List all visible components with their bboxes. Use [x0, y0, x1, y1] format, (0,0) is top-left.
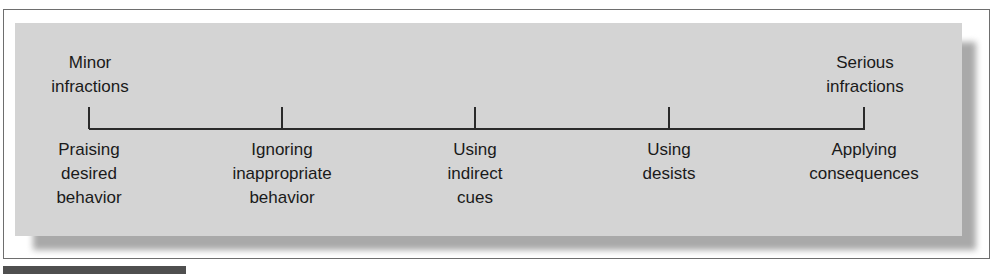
tick-4	[668, 107, 670, 129]
right-end-label: Serious infractions	[810, 51, 920, 99]
left-end-label: Minor infractions	[38, 51, 142, 99]
tick-1	[88, 107, 90, 129]
continuum-axis-line	[89, 128, 865, 130]
tick-3	[474, 107, 476, 129]
point-label-consequences: Applying consequences	[789, 138, 939, 186]
point-label-desists: Using desists	[609, 138, 729, 186]
point-label-indirect-cues: Using indirect cues	[415, 138, 535, 210]
figure-caption-tab	[3, 266, 186, 274]
tick-2	[281, 107, 283, 129]
tick-5	[863, 107, 865, 129]
point-label-ignoring: Ignoring inappropriate behavior	[212, 138, 352, 210]
point-label-praising: Praising desired behavior	[29, 138, 149, 210]
